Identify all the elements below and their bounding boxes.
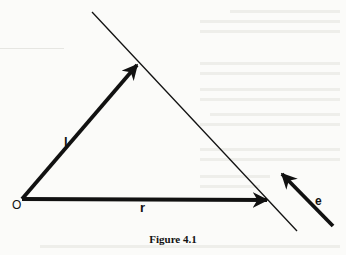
- vector-l-arrow: [22, 65, 137, 199]
- figure-caption: Figure 4.1: [0, 233, 346, 245]
- vector-l-label: l: [64, 134, 68, 149]
- vector-e-arrow: [282, 174, 333, 226]
- vector-r-label: r: [140, 200, 145, 215]
- vector-diagram: [0, 0, 346, 255]
- vector-e-label: e: [315, 194, 322, 208]
- origin-label: O: [12, 198, 21, 212]
